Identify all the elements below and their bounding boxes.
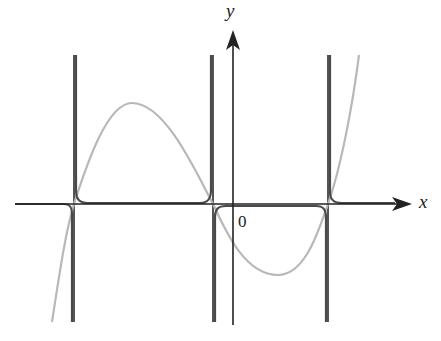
vertical-asymptotes bbox=[74, 55, 328, 322]
y-axis-label: y bbox=[226, 0, 234, 22]
x-axis-label: x bbox=[419, 191, 427, 213]
origin-label: 0 bbox=[238, 212, 247, 232]
function-graph bbox=[0, 0, 441, 341]
cubic-curve bbox=[52, 55, 359, 322]
